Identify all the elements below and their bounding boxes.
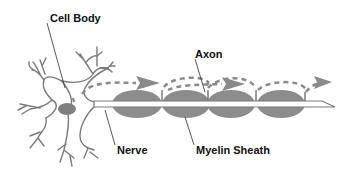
leader-lines [47, 23, 205, 145]
nucleus [58, 103, 76, 115]
arrowhead-icon [314, 76, 332, 89]
label-axon: Axon [195, 48, 223, 60]
label-cell-body: Cell Body [50, 12, 102, 24]
nucleus-tick [73, 98, 74, 102]
label-myelin-sheath: Myelin Sheath [196, 144, 270, 156]
arrowhead-icon [136, 76, 160, 90]
axon [94, 101, 335, 107]
label-nerve: Nerve [117, 144, 148, 156]
neuron-diagram: Cell Body Axon Nerve Myelin Sheath [0, 0, 344, 189]
